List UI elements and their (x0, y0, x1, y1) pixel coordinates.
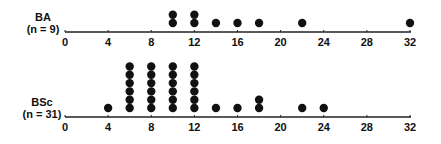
data-dot (125, 104, 133, 112)
data-dot (125, 79, 133, 87)
data-dot (190, 71, 198, 79)
data-dot (169, 11, 177, 19)
data-dot (169, 19, 177, 27)
x-tick-label: 8 (148, 36, 154, 48)
data-dot (147, 71, 155, 79)
data-dot (406, 19, 414, 27)
x-tick-label: 32 (404, 36, 416, 48)
data-dot (255, 96, 263, 104)
data-dot (298, 19, 306, 27)
x-tick-label: 12 (188, 121, 200, 133)
data-dot (190, 79, 198, 87)
data-dot (233, 19, 241, 27)
data-dot (169, 96, 177, 104)
data-dot (125, 87, 133, 95)
data-dot (147, 79, 155, 87)
dot-plot-canvas: 048121620242832048121620242832 (0, 0, 441, 144)
data-dot (125, 71, 133, 79)
x-tick-label: 28 (361, 36, 373, 48)
data-dot (104, 104, 112, 112)
data-dot (190, 87, 198, 95)
data-dot (190, 11, 198, 19)
data-dot (298, 104, 306, 112)
x-tick-label: 28 (361, 121, 373, 133)
data-dot (125, 62, 133, 70)
data-dot (320, 104, 328, 112)
data-dot (169, 62, 177, 70)
data-dot (255, 19, 263, 27)
data-dot (147, 104, 155, 112)
data-dot (147, 87, 155, 95)
x-tick-label: 4 (105, 121, 112, 133)
data-dot (169, 79, 177, 87)
data-dot (233, 104, 241, 112)
data-dot (255, 104, 263, 112)
data-dot (147, 96, 155, 104)
data-dot (190, 104, 198, 112)
data-dot (125, 96, 133, 104)
x-tick-label: 8 (148, 121, 154, 133)
x-tick-label: 16 (231, 121, 243, 133)
data-dot (169, 71, 177, 79)
data-dot (190, 62, 198, 70)
data-dot (190, 96, 198, 104)
data-dot (147, 62, 155, 70)
x-tick-label: 20 (275, 36, 287, 48)
x-tick-label: 16 (231, 36, 243, 48)
data-dot (212, 104, 220, 112)
x-tick-label: 0 (62, 36, 68, 48)
x-tick-label: 4 (105, 36, 112, 48)
x-tick-label: 32 (404, 121, 416, 133)
data-dot (169, 87, 177, 95)
x-tick-label: 12 (188, 36, 200, 48)
x-tick-label: 0 (62, 121, 68, 133)
data-dot (169, 104, 177, 112)
x-tick-label: 24 (318, 36, 331, 48)
x-tick-label: 24 (318, 121, 331, 133)
x-tick-label: 20 (275, 121, 287, 133)
data-dot (212, 19, 220, 27)
data-dot (190, 19, 198, 27)
